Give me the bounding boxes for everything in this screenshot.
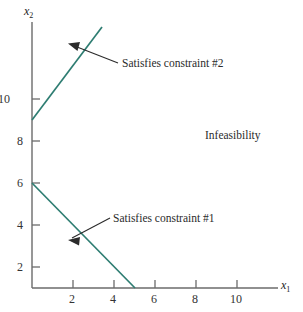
constraint-1-line — [32, 183, 135, 288]
y-axis-label: x2 — [24, 4, 33, 20]
y-tick-label-6: 6 — [17, 176, 23, 191]
y-tick-label-2: 2 — [17, 260, 23, 275]
x-tick-label-4: 4 — [110, 292, 116, 307]
y-axis-ticks — [32, 99, 40, 267]
constraint-2-arrow — [68, 42, 118, 63]
y-tick-label-4: 4 — [17, 218, 23, 233]
plot-canvas — [0, 0, 303, 312]
x-tick-label-2: 2 — [69, 292, 75, 307]
x-axis-label-sub: 1 — [286, 285, 290, 294]
linear-programming-figure: 10 8 6 4 2 2 4 6 8 10 x2 x1 Infeasibilit… — [0, 0, 303, 312]
x-tick-label-8: 8 — [192, 292, 198, 307]
x-axis-label: x1 — [281, 278, 290, 294]
y-tick-label-10: 10 — [0, 92, 10, 107]
constraint-2-line — [32, 27, 102, 120]
x-axis-ticks — [73, 280, 237, 288]
x-tick-label-6: 6 — [151, 292, 157, 307]
annotation-constraint-1: Satisfies constraint #1 — [113, 212, 215, 224]
x-tick-label-10: 10 — [230, 292, 242, 307]
y-tick-label-8: 8 — [17, 134, 23, 149]
annotation-infeasibility: Infeasibility — [205, 129, 261, 141]
y-axis-label-sub: 2 — [29, 11, 33, 20]
annotation-constraint-2: Satisfies constraint #2 — [122, 57, 224, 69]
